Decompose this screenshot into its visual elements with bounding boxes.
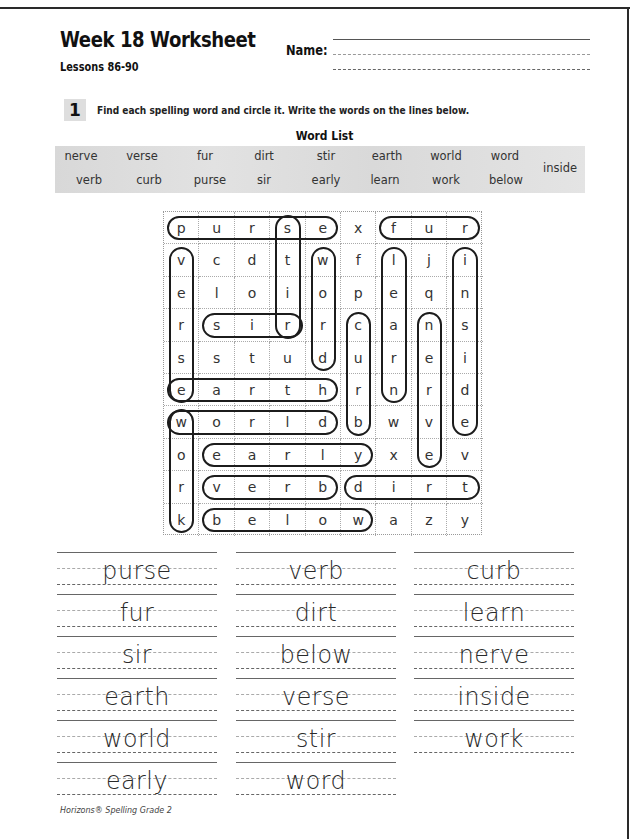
line-top xyxy=(57,762,217,763)
grid-cell[interactable]: z xyxy=(412,504,447,536)
circled-word-fur[interactable] xyxy=(379,216,479,240)
answer-word: earth xyxy=(61,683,213,711)
line-top xyxy=(414,678,574,679)
answer-word: work xyxy=(418,725,570,753)
line-top xyxy=(57,636,217,637)
grid-cell[interactable]: d xyxy=(235,244,270,276)
word-list-item: sir xyxy=(257,173,271,187)
page-border-top xyxy=(0,7,630,9)
grid-cell[interactable]: l xyxy=(199,277,234,309)
answer-word: fur xyxy=(61,599,213,627)
word-list-item: purse xyxy=(194,173,226,187)
grid-cell[interactable]: j xyxy=(412,244,447,276)
circled-word-word[interactable] xyxy=(311,247,336,371)
line-top xyxy=(236,678,396,679)
circled-word-work[interactable] xyxy=(169,409,194,533)
answer-line[interactable]: sir xyxy=(57,636,217,670)
word-list-title: Word List xyxy=(0,128,631,143)
line-top xyxy=(236,762,396,763)
line-top xyxy=(57,720,217,721)
answer-line[interactable]: stir xyxy=(236,720,396,754)
answer-line[interactable]: verse xyxy=(236,678,396,712)
circled-word-curb[interactable] xyxy=(346,312,371,436)
circled-word-sir[interactable] xyxy=(202,313,302,337)
word-search-grid[interactable]: pursexfurvcdtwfljieloiopeqnrsirrcanssstu… xyxy=(163,211,482,535)
answer-line[interactable]: work xyxy=(414,720,574,754)
circled-word-nerve[interactable] xyxy=(417,312,442,468)
word-list-item: verse xyxy=(126,149,158,163)
exercise-number-badge: 1 xyxy=(64,99,86,121)
worksheet-title: Week 18 Worksheet xyxy=(60,28,256,52)
answer-word: stir xyxy=(240,725,392,753)
line-top xyxy=(414,552,574,553)
answer-word: learn xyxy=(418,599,570,627)
circled-word-inside[interactable] xyxy=(452,247,477,435)
line-top xyxy=(57,594,217,595)
line-top xyxy=(414,720,574,721)
word-list-item: verb xyxy=(76,173,102,187)
word-list-item: world xyxy=(430,149,462,163)
grid-cell[interactable]: f xyxy=(341,244,376,276)
circled-word-early[interactable] xyxy=(202,443,373,467)
answer-line[interactable]: world xyxy=(57,720,217,754)
name-line-top xyxy=(333,39,590,40)
circled-word-below[interactable] xyxy=(202,508,373,532)
grid-cell[interactable]: y xyxy=(447,504,482,536)
grid-cell[interactable]: w xyxy=(376,406,411,438)
circled-word-dirt[interactable] xyxy=(344,475,480,499)
circled-word-verb[interactable] xyxy=(202,475,338,499)
answer-word: purse xyxy=(61,557,213,585)
answer-word: inside xyxy=(418,683,570,711)
grid-cell[interactable]: s xyxy=(199,342,234,374)
exercise-instructions: Find each spelling word and circle it. W… xyxy=(97,104,469,116)
grid-cell[interactable]: x xyxy=(376,439,411,471)
answer-word: curb xyxy=(418,557,570,585)
grid-cell[interactable]: t xyxy=(235,342,270,374)
grid-cell[interactable]: o xyxy=(235,277,270,309)
answer-word: below xyxy=(240,641,392,669)
answer-line[interactable]: curb xyxy=(414,552,574,586)
answer-word: word xyxy=(240,767,392,795)
answer-line[interactable]: nerve xyxy=(414,636,574,670)
circled-word-learn[interactable] xyxy=(381,247,406,403)
answer-line[interactable]: purse xyxy=(57,552,217,586)
word-list-item: work xyxy=(432,173,460,187)
line-top xyxy=(236,594,396,595)
answer-line[interactable]: verb xyxy=(236,552,396,586)
answer-word: verb xyxy=(240,557,392,585)
word-list-item: fur xyxy=(197,149,213,163)
lessons-subtitle: Lessons 86-90 xyxy=(60,60,139,74)
answer-word: verse xyxy=(240,683,392,711)
answer-line[interactable]: earth xyxy=(57,678,217,712)
grid-cell[interactable]: c xyxy=(199,244,234,276)
circled-word-earth[interactable] xyxy=(167,378,338,402)
name-line-base xyxy=(333,69,590,70)
grid-cell[interactable]: u xyxy=(270,342,305,374)
grid-cell[interactable]: v xyxy=(447,439,482,471)
grid-cell[interactable]: x xyxy=(341,212,376,244)
word-list-item: earth xyxy=(372,149,403,163)
answer-word: sir xyxy=(61,641,213,669)
answer-word: early xyxy=(61,767,213,795)
line-top xyxy=(414,594,574,595)
answer-line[interactable]: word xyxy=(236,762,396,796)
circled-word-purse[interactable] xyxy=(167,216,338,240)
answer-line[interactable]: learn xyxy=(414,594,574,628)
word-list-bar: nerve verse fur dirt stir earth world wo… xyxy=(55,146,585,193)
grid-cell[interactable]: a xyxy=(376,504,411,536)
word-list-item: inside xyxy=(543,161,577,175)
answer-line[interactable]: below xyxy=(236,636,396,670)
word-list-item: word xyxy=(491,149,519,163)
grid-cell[interactable]: p xyxy=(341,277,376,309)
word-list-item: below xyxy=(489,173,523,187)
answer-word: dirt xyxy=(240,599,392,627)
word-list-item: nerve xyxy=(65,149,98,163)
answer-line[interactable]: early xyxy=(57,762,217,796)
grid-cell[interactable]: q xyxy=(412,277,447,309)
answer-line[interactable]: dirt xyxy=(236,594,396,628)
answer-word: world xyxy=(61,725,213,753)
line-top xyxy=(57,678,217,679)
line-top xyxy=(236,720,396,721)
answer-line[interactable]: inside xyxy=(414,678,574,712)
answer-line[interactable]: fur xyxy=(57,594,217,628)
